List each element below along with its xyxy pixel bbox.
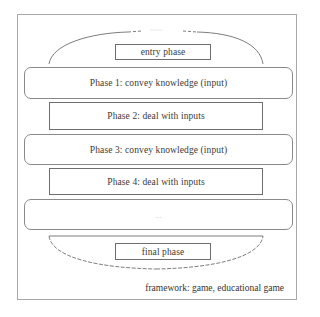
phase-4-box: Phase 4: deal with inputs [49, 168, 263, 195]
phase-2-label: Phase 2: deal with inputs [107, 111, 205, 121]
final-phase-label: final phase [142, 247, 185, 257]
entry-phase-box: entry phase [115, 44, 211, 60]
final-phase-box: final phase [115, 243, 211, 260]
phase-2-box: Phase 2: deal with inputs [49, 102, 263, 130]
phase-3-box: Phase 3: convey knowledge (input) [24, 134, 293, 165]
phase-more-box: ... [24, 199, 293, 230]
diagram-caption: framework: game, educational game [145, 283, 284, 293]
phase-1-box: Phase 1: convey knowledge (input) [24, 67, 293, 99]
phase-more-label: ... [155, 210, 162, 220]
entry-phase-label: entry phase [141, 47, 186, 57]
phase-4-label: Phase 4: deal with inputs [107, 177, 205, 187]
phase-3-label: Phase 3: convey knowledge (input) [90, 145, 227, 155]
phase-1-label: Phase 1: convey knowledge (input) [90, 78, 227, 88]
